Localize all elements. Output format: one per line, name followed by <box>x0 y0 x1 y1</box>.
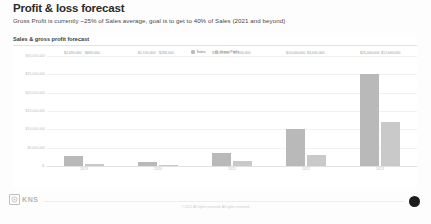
bar-column[interactable]: $25,000,000 <box>360 56 379 166</box>
chart-title-divider <box>13 45 417 46</box>
chart-plot-area: $30,000,000$25,000,000$20,000,000$15,000… <box>13 56 417 180</box>
bar[interactable]: $283,000 <box>159 165 178 166</box>
bar-column[interactable]: $3,000,000 <box>307 56 326 166</box>
bar-value-label: $12,000,000 <box>381 51 400 55</box>
bar[interactable]: $10,000,000 <box>286 129 305 166</box>
y-axis-tick-label: $10,000,000 <box>26 127 45 131</box>
x-axis-tick-label: 2019 <box>47 167 121 171</box>
legend-swatch-icon <box>191 50 194 53</box>
y-axis-tick-label: $30,000,000 <box>26 54 45 58</box>
bar-value-label: $283,000 <box>159 51 174 55</box>
bar-group: $1,150,000$283,000 <box>121 56 195 166</box>
chart-card: Sales & gross profit forecast SalesGross… <box>13 36 417 188</box>
legend-item[interactable]: Sales <box>191 50 205 54</box>
x-axis: 20192020202120222023 <box>47 167 417 171</box>
bar-column[interactable]: $663,000 <box>85 56 104 166</box>
bar-column[interactable]: $3,500,000 <box>212 56 231 166</box>
bars-layer: $2,690,000$663,000$1,150,000$283,000$3,5… <box>47 56 417 166</box>
bar-group: $3,500,000$1,400,000 <box>195 56 269 166</box>
logo-wordmark: KNS <box>22 196 39 203</box>
bar-value-label: $663,000 <box>85 51 100 55</box>
bar-group: $2,690,000$663,000 <box>47 56 121 166</box>
bar-value-label: $1,400,000 <box>233 51 251 55</box>
bar-column[interactable]: $283,000 <box>159 56 178 166</box>
corner-badge <box>409 196 420 207</box>
bar-column[interactable]: $2,690,000 <box>64 56 83 166</box>
bar[interactable]: $3,000,000 <box>307 155 326 166</box>
x-axis-tick-label: 2020 <box>121 167 195 171</box>
bar-column[interactable]: $12,000,000 <box>381 56 400 166</box>
y-axis: $30,000,000$25,000,000$20,000,000$15,000… <box>13 56 47 166</box>
bar[interactable]: $663,000 <box>85 164 104 166</box>
x-axis-tick-label: 2023 <box>343 167 417 171</box>
y-axis-tick-label: $- <box>42 164 45 168</box>
bar[interactable]: $2,690,000 <box>64 156 83 166</box>
bar-column[interactable]: $10,000,000 <box>286 56 305 166</box>
bar-group: $10,000,000$3,000,000 <box>269 56 343 166</box>
bar[interactable]: $12,000,000 <box>381 122 400 166</box>
bar-column[interactable]: $1,400,000 <box>233 56 252 166</box>
bar-value-label: $10,000,000 <box>286 51 305 55</box>
bar-group: $25,000,000$12,000,000 <box>343 56 417 166</box>
footer-divider <box>44 201 404 202</box>
y-axis-tick-label: $20,000,000 <box>26 91 45 95</box>
bar-value-label: $2,690,000 <box>64 51 82 55</box>
chart-title: Sales & gross profit forecast <box>13 36 89 42</box>
bar-column[interactable]: $1,150,000 <box>138 56 157 166</box>
page-subtitle: Gross Profit is currently ~25% of Sales … <box>13 17 285 24</box>
bar[interactable]: $1,400,000 <box>233 161 252 166</box>
x-axis-tick-label: 2022 <box>269 167 343 171</box>
brand-logo: KNS <box>9 194 39 205</box>
bar[interactable]: $1,150,000 <box>138 162 157 166</box>
x-axis-tick-label: 2021 <box>195 167 269 171</box>
bar[interactable]: $3,500,000 <box>212 153 231 166</box>
y-axis-tick-label: $25,000,000 <box>26 72 45 76</box>
bar-value-label: $25,000,000 <box>360 51 379 55</box>
bar-value-label: $3,500,000 <box>212 51 230 55</box>
slide-canvas: Profit & loss forecast Gross Profit is c… <box>0 0 431 224</box>
y-axis-tick-label: $15,000,000 <box>26 109 45 113</box>
page-title: Profit & loss forecast <box>13 2 124 14</box>
logo-mark-icon <box>9 194 20 205</box>
bar-value-label: $3,000,000 <box>307 51 325 55</box>
legend-label: Sales <box>197 50 206 54</box>
bar-value-label: $1,150,000 <box>138 51 156 55</box>
bar[interactable]: $25,000,000 <box>360 74 379 166</box>
y-axis-tick-label: $5,000,000 <box>27 146 45 150</box>
copyright-text: © 2021 All rights reserved. All rights r… <box>0 205 431 209</box>
